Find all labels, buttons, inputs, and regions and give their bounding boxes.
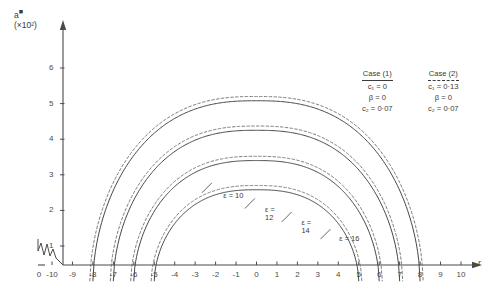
x-tick-label-5: 5: [353, 271, 365, 279]
legend-case-1-param-2: c₂ = 0·07: [362, 103, 393, 114]
x-tick-label-3: 3: [312, 271, 324, 279]
legend-case-1-param-1: β = 0: [362, 92, 393, 103]
legend-case-1-title: Case (1): [362, 68, 393, 81]
annotation-leader-1: [245, 198, 255, 208]
x-tick-label-10: 10: [455, 271, 467, 279]
y-tick-label-5: 5: [49, 100, 53, 108]
annotation-epsilon-16: ε = 16: [339, 235, 359, 243]
x-tick-label--4: -4: [169, 271, 181, 279]
legend-case-2-param-0: c₁ = 0·13: [428, 81, 459, 92]
y-axis-arrow: [60, 20, 66, 30]
y-axis-scale: (×10²): [14, 20, 37, 30]
x-tick-label--2: -2: [210, 271, 222, 279]
legend-case-1: Case (1) c₁ = 0 β = 0 c₂ = 0·07: [362, 68, 393, 114]
x-tick-label-6: 6: [373, 271, 385, 279]
curve-case1-eps-12: [113, 130, 399, 281]
x-tick-label--1: -1: [230, 271, 242, 279]
annotation-epsilon-14: ε =14: [301, 219, 311, 235]
x-axis-title: r: [478, 258, 481, 269]
x-tick-label-4: 4: [332, 271, 344, 279]
x-tick-label-2: 2: [291, 271, 303, 279]
annotation-epsilon-12: ε =12: [265, 206, 275, 222]
x-tick-label--6: -6: [128, 271, 140, 279]
y-tick-label-3: 3: [49, 171, 53, 179]
x-axis-origin-label: 0: [33, 271, 45, 279]
curve-case1-eps-10: [93, 101, 420, 281]
legend-case-2: Case (2) c₁ = 0·13 β = 0 c₂ = 0·07: [428, 68, 459, 114]
x-tick-label--5: -5: [148, 271, 160, 279]
curve-case2-eps-12: [110, 126, 402, 281]
annotation-epsilon-10: ε = 10: [223, 192, 243, 200]
y-tick-label-1: 1: [49, 242, 53, 250]
x-tick-label--10: -10: [46, 271, 58, 279]
x-tick-label--8: -8: [87, 271, 99, 279]
y-tick-label-6: 6: [49, 64, 53, 72]
x-tick-label-8: 8: [414, 271, 426, 279]
x-tick-label-1: 1: [271, 271, 283, 279]
y-axis-superscript: ■: [19, 8, 23, 15]
y-tick-label-4: 4: [49, 135, 53, 143]
legend-case-2-title: Case (2): [428, 68, 459, 81]
x-tick-label--3: -3: [189, 271, 201, 279]
y-tick-label-2: 2: [49, 206, 53, 214]
legend-case-2-param-2: c₂ = 0·07: [428, 103, 459, 114]
x-tick-label-7: 7: [394, 271, 406, 279]
curve-case2-eps-16: [151, 185, 362, 280]
chart-canvas: [0, 0, 493, 300]
annotation-leader-2: [282, 212, 292, 222]
legend-case-1-param-0: c₁ = 0: [362, 81, 393, 92]
y-axis-title: a■ (×10²): [14, 8, 37, 31]
annotation-value: 12: [265, 213, 273, 222]
x-tick-label--7: -7: [107, 271, 119, 279]
curve-case1-eps-16: [154, 190, 359, 281]
annotation-leader-0: [202, 183, 212, 193]
x-tick-label--9: -9: [66, 271, 78, 279]
x-tick-label-0: 0: [251, 271, 263, 279]
annotation-leader-3: [321, 229, 331, 239]
annotation-value: 14: [301, 226, 309, 235]
x-tick-label-9: 9: [435, 271, 447, 279]
legend-case-2-param-1: β = 0: [428, 92, 459, 103]
